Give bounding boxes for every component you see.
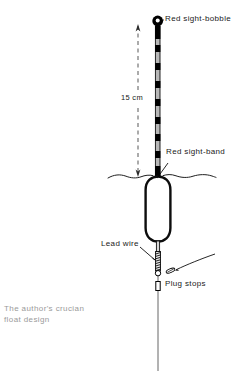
- red-sight-bobble-hole: [156, 18, 160, 22]
- label-plug-stops: Plug stops: [165, 279, 206, 289]
- float-eye-ring: [155, 271, 160, 276]
- dimension-arrowhead-top: [136, 24, 141, 32]
- float-body: [146, 177, 171, 242]
- plug-stop-upper: [166, 267, 176, 274]
- label-lead-wire: Lead wire: [101, 239, 139, 249]
- label-red-sight-bobble: Red sight-bobble: [165, 14, 231, 24]
- figure-caption: The author's crucian float design: [4, 303, 84, 325]
- leader-line-lead-wire: [140, 247, 155, 260]
- leader-line-plug-stops: [176, 254, 215, 270]
- label-dimension-15cm: 15 cm: [121, 93, 143, 103]
- plug-stop-lower: [156, 282, 160, 291]
- label-red-sight-band: Red sight-band: [166, 147, 225, 157]
- stem-bands: [155, 26, 160, 176]
- lead-wire-coil: [156, 252, 161, 272]
